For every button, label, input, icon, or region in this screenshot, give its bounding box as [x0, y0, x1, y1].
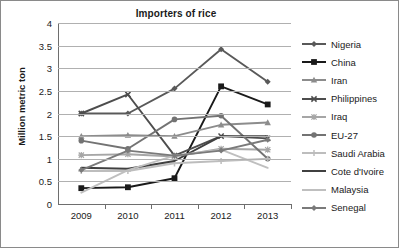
- legend-marker-icon: [301, 37, 327, 51]
- legend-item-malaysia[interactable]: Malaysia: [301, 181, 399, 199]
- series-philippines: [79, 92, 271, 158]
- legend-marker-icon: [301, 164, 327, 178]
- legend-marker-icon: [301, 128, 327, 142]
- legend-marker-icon: [301, 146, 327, 160]
- y-tick-label: 1.5: [18, 131, 52, 142]
- y-tick-label: 0.5: [18, 176, 52, 187]
- gridline: [58, 46, 291, 47]
- legend-item-philippines[interactable]: Philippines: [301, 90, 399, 108]
- legend-item-china[interactable]: China: [301, 53, 399, 71]
- legend-item-senegal[interactable]: Senegal: [301, 199, 399, 217]
- legend-label: Malaysia: [331, 184, 369, 195]
- legend-item-iraq[interactable]: Iraq: [301, 108, 399, 126]
- series-nigeria: [78, 46, 270, 116]
- gridline: [58, 91, 291, 92]
- legend-marker-icon: [301, 201, 327, 215]
- legend-label: Cote d'Ivoire: [331, 166, 384, 177]
- y-tick-label: 3.5: [18, 40, 52, 51]
- legend-label: Philippines: [331, 93, 377, 104]
- legend-item-iran[interactable]: Iran: [301, 71, 399, 89]
- y-tick-label: 0: [18, 199, 52, 210]
- x-tick-label: 2009: [59, 210, 103, 221]
- legend-item-cote-d-ivoire[interactable]: Cote d'Ivoire: [301, 162, 399, 180]
- gridline: [58, 68, 291, 69]
- x-tick-label: 2011: [153, 210, 197, 221]
- gridline: [58, 159, 291, 160]
- gridline: [58, 114, 291, 115]
- y-tick-label: 2: [18, 108, 52, 119]
- x-tick-mark: [244, 204, 245, 209]
- y-tick-label: 4: [18, 18, 52, 29]
- legend-marker-icon: [301, 55, 327, 69]
- legend-label: Saudi Arabia: [331, 148, 385, 159]
- x-tick-label: 2010: [106, 210, 150, 221]
- legend-label: Iran: [331, 75, 347, 86]
- chart-legend: NigeriaChinaIranPhilippinesIraqEU-27Saud…: [301, 35, 399, 217]
- gridline: [58, 181, 291, 182]
- legend-marker-icon: [301, 92, 327, 106]
- x-axis: 20092010201120122013: [58, 204, 291, 230]
- legend-label: EU-27: [331, 130, 358, 141]
- legend-label: Nigeria: [331, 39, 361, 50]
- legend-item-eu-27[interactable]: EU-27: [301, 126, 399, 144]
- x-tick-mark: [151, 204, 152, 209]
- chart-title: Importers of rice: [61, 8, 291, 19]
- legend-marker-icon: [301, 183, 327, 197]
- x-tick-label: 2012: [199, 210, 243, 221]
- legend-label: Iraq: [331, 111, 347, 122]
- chart-container: Importers of rice Million metric ton 00.…: [0, 0, 399, 248]
- plot-area: [58, 23, 291, 204]
- x-tick-label: 2013: [246, 210, 290, 221]
- gridline: [58, 23, 291, 24]
- y-tick-label: 3: [18, 63, 52, 74]
- legend-marker-icon: [301, 73, 327, 87]
- x-tick-mark: [105, 204, 106, 209]
- legend-marker-icon: [301, 110, 327, 124]
- x-tick-mark: [291, 204, 292, 209]
- y-tick-label: 1: [18, 153, 52, 164]
- x-tick-mark: [198, 204, 199, 209]
- y-tick-label: 2.5: [18, 85, 52, 96]
- legend-item-saudi-arabia[interactable]: Saudi Arabia: [301, 144, 399, 162]
- legend-label: Senegal: [331, 202, 366, 213]
- legend-label: China: [331, 57, 356, 68]
- legend-item-nigeria[interactable]: Nigeria: [301, 35, 399, 53]
- gridline: [58, 136, 291, 137]
